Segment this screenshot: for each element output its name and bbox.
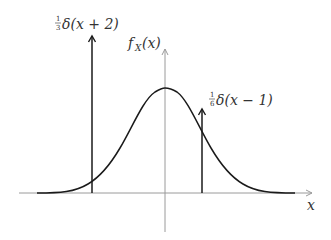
function-subscript: X [134, 43, 142, 53]
weight-numerator: 1 [210, 91, 214, 99]
x-axis-label: x [307, 197, 315, 213]
y-axis-label: f X (x) [127, 35, 161, 53]
delta-expression: δ(x − 1) [216, 92, 273, 108]
weight-denominator: 3 [56, 24, 60, 32]
impulse-label-right: 1 6 δ(x − 1) [209, 91, 273, 108]
pdf-diagram: 1 3 δ(x + 2) f X (x) 1 6 δ(x − 1) x [0, 0, 331, 240]
weight-numerator: 1 [56, 15, 60, 23]
delta-expression: δ(x + 2) [62, 16, 119, 32]
weight-denominator: 6 [210, 100, 215, 108]
function-argument: (x) [142, 35, 161, 51]
impulse-label-left: 1 3 δ(x + 2) [55, 15, 119, 32]
